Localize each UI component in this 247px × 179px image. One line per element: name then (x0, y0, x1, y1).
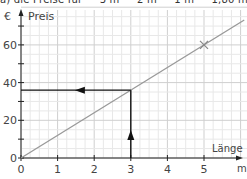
x-axis-label: Länge (212, 143, 243, 154)
y-axis-label: Preis (28, 10, 55, 23)
y-tick-label: 60 (3, 39, 17, 52)
y-tick-label: 20 (3, 114, 17, 127)
y-axis-arrow-icon (19, 9, 24, 16)
y-tick-label: 0 (10, 152, 17, 165)
arrow-up-icon (127, 130, 134, 140)
price-length-chart: 0123450204060 € Preis Länge m (0, 0, 247, 179)
grid (21, 7, 247, 158)
x-axis-arrow-icon (236, 156, 243, 161)
y-unit-label: € (4, 10, 11, 23)
x-tick-label: 0 (18, 163, 25, 176)
x-tick-label: 5 (201, 163, 208, 176)
y-tick-label: 40 (3, 77, 17, 90)
x-tick-label: 1 (54, 163, 61, 176)
x-tick-label: 4 (164, 163, 171, 176)
x-tick-label: 2 (91, 163, 98, 176)
x-tick-label: 3 (127, 163, 134, 176)
x-unit-label: m (237, 163, 247, 174)
